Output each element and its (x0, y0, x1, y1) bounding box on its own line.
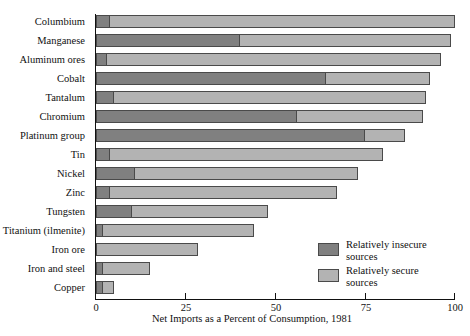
bar-segment-insecure (96, 167, 135, 180)
bar-segment-secure (296, 110, 423, 123)
category-label: Cobalt (0, 73, 85, 84)
x-axis-line (95, 299, 455, 300)
category-label: Nickel (0, 168, 85, 179)
bar-segment-insecure (96, 15, 110, 28)
bar-segment-insecure (96, 148, 110, 161)
x-axis-title: Net Imports as a Percent of Consumption,… (0, 313, 470, 324)
legend-label-insecure-line2: sources (346, 251, 461, 263)
legend-label-secure-line2: sources (346, 277, 461, 289)
bar-segment-insecure (96, 91, 114, 104)
bar-segment-secure (109, 148, 383, 161)
legend-label-insecure-line1: Relatively insecure (346, 239, 461, 251)
category-label: Chromium (0, 111, 85, 122)
bar-segment-secure (239, 34, 452, 47)
category-axis-labels: Columbium Manganese Aluminum ores Cobalt… (0, 14, 90, 299)
legend-swatch-secure-icon (318, 269, 339, 282)
bar-segment-insecure (96, 186, 110, 199)
legend-swatch-insecure-icon (318, 243, 339, 256)
bar-segment-insecure (96, 34, 240, 47)
bar-segment-secure (131, 205, 268, 218)
x-tick-label: 50 (271, 302, 282, 313)
category-label: Zinc (0, 187, 85, 198)
bar-segment-secure (96, 243, 198, 256)
category-label: Platinum group (0, 130, 85, 141)
x-axis-tick (365, 293, 366, 299)
bar-segment-insecure (96, 129, 365, 142)
x-tick-label: 75 (361, 302, 372, 313)
x-axis-title-text: Net Imports as a Percent of Consumption,… (118, 313, 352, 324)
bar-segment-secure (109, 186, 336, 199)
category-label: Titanium (ilmenite) (0, 225, 85, 236)
bar-segment-secure (134, 167, 358, 180)
legend-label-secure: Relatively secure sources (346, 265, 461, 288)
bar-segment-secure (106, 53, 441, 66)
category-label: Tantalum (0, 92, 85, 103)
chart-legend: Relatively insecure sources Relatively s… (318, 241, 463, 293)
bar-segment-secure (102, 224, 254, 237)
category-label: Columbium (0, 16, 85, 27)
bar-segment-secure (102, 262, 150, 275)
legend-label-secure-line1: Relatively secure (346, 265, 461, 277)
x-axis-tick (275, 293, 276, 299)
category-label: Iron ore (0, 244, 85, 255)
stacked-bar-chart: Columbium Manganese Aluminum ores Cobalt… (0, 0, 470, 336)
category-label: Aluminum ores (0, 54, 85, 65)
legend-item-secure: Relatively secure sources (318, 267, 463, 291)
bar-segment-insecure (96, 110, 297, 123)
legend-item-insecure: Relatively insecure sources (318, 241, 463, 265)
x-tick-label: 25 (181, 302, 192, 313)
category-label: Tin (0, 149, 85, 160)
bar-segment-secure (364, 129, 404, 142)
category-label: Tungsten (0, 206, 85, 217)
legend-label-insecure: Relatively insecure sources (346, 239, 461, 262)
bar-segment-insecure (96, 205, 132, 218)
x-axis-tick (454, 293, 455, 299)
bar-segment-secure (109, 15, 455, 28)
category-label: Manganese (0, 35, 85, 46)
bar-segment-secure (113, 91, 426, 104)
x-tick-label: 100 (447, 302, 463, 313)
category-label: Copper (0, 282, 85, 293)
category-label: Iron and steel (0, 263, 85, 274)
bar-segment-secure (102, 281, 114, 294)
bar-segment-insecure (96, 72, 326, 85)
bar-segment-secure (325, 72, 430, 85)
x-axis-tick (185, 293, 186, 299)
x-tick-label: 0 (93, 302, 98, 313)
